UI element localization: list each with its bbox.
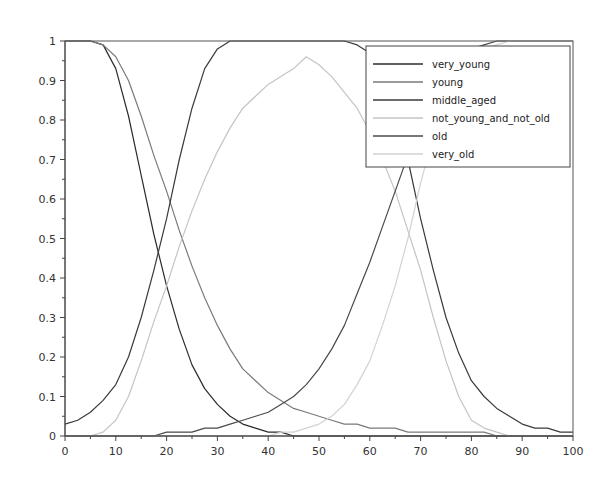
x-tick-label: 70 bbox=[414, 445, 428, 458]
x-tick-label: 30 bbox=[210, 445, 224, 458]
x-tick-label: 20 bbox=[160, 445, 174, 458]
legend-label-young: young bbox=[432, 77, 463, 88]
legend-label-very-old: very_old bbox=[432, 149, 474, 161]
y-tick-label: 0.8 bbox=[39, 114, 57, 127]
y-tick-label: 0.4 bbox=[39, 272, 57, 285]
y-tick-label: 0.3 bbox=[39, 312, 57, 325]
x-tick-label: 90 bbox=[515, 445, 529, 458]
legend-label-not-young-and-not-old: not_young_and_not_old bbox=[432, 113, 550, 125]
y-tick-label: 0.5 bbox=[39, 233, 57, 246]
y-tick-label: 0.7 bbox=[39, 154, 57, 167]
x-tick-label: 0 bbox=[62, 445, 69, 458]
y-tick-label: 0.2 bbox=[39, 351, 57, 364]
legend: very_youngyoungmiddle_agednot_young_and_… bbox=[366, 46, 570, 167]
x-tick-label: 50 bbox=[312, 445, 326, 458]
x-tick-label: 100 bbox=[563, 445, 584, 458]
y-tick-label: 1 bbox=[49, 35, 56, 48]
x-tick-label: 60 bbox=[363, 445, 377, 458]
y-tick-label: 0.6 bbox=[39, 193, 57, 206]
legend-label-middle-aged: middle_aged bbox=[432, 95, 496, 107]
x-tick-label: 80 bbox=[464, 445, 478, 458]
y-tick-label: 0.9 bbox=[39, 75, 57, 88]
y-tick-label: 0 bbox=[49, 430, 56, 443]
y-tick-label: 0.1 bbox=[39, 391, 57, 404]
x-tick-label: 10 bbox=[109, 445, 123, 458]
legend-label-old: old bbox=[432, 131, 447, 142]
membership-function-chart: 0102030405060708090100 00.10.20.30.40.50… bbox=[0, 0, 608, 485]
legend-label-very-young: very_young bbox=[432, 59, 490, 71]
x-tick-label: 40 bbox=[261, 445, 275, 458]
